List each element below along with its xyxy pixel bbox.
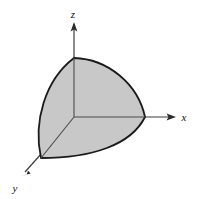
x-axis-label: x <box>181 111 187 123</box>
figure-container: z x y <box>0 0 197 199</box>
solid-surface-group <box>39 58 145 158</box>
z-axis-label: z <box>70 8 76 20</box>
y-axis-label: y <box>12 182 18 194</box>
octant-sphere-surface <box>39 58 145 158</box>
octant-sphere-diagram: z x y <box>0 0 197 199</box>
